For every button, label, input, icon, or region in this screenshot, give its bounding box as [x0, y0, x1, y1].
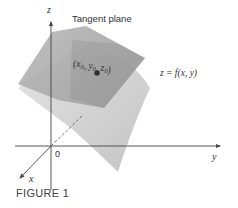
tangent-plane-figure: z Tangent plane (x0, y0, z0) z = f(x, y)…: [0, 0, 238, 208]
z-axis-label: z: [46, 4, 51, 15]
tangent-plane-label: Tangent plane: [72, 13, 132, 24]
x-axis: [20, 146, 51, 178]
y-axis-label: y: [211, 151, 217, 162]
x-axis-label: x: [28, 173, 34, 184]
figure-caption: FIGURE 1: [16, 187, 69, 199]
surface-label: z = f(x, y): [159, 68, 197, 79]
origin-label: 0: [55, 149, 60, 159]
